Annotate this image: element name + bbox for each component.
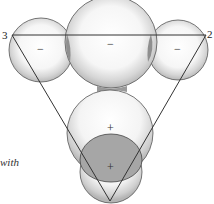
plus-sign-lower: +	[107, 160, 114, 174]
vertex-label-2: 2	[207, 28, 213, 40]
minus-sign-left: −	[37, 42, 44, 56]
minus-sign-right: −	[174, 42, 181, 56]
minus-sign-center: −	[107, 37, 114, 51]
caption-fragment: with	[0, 156, 19, 168]
orbital-diagram: 3 2 − − − + +	[0, 0, 214, 204]
vertex-label-3: 3	[2, 29, 8, 41]
plus-sign-upper: +	[107, 121, 114, 135]
dark-filled-lobe	[80, 134, 142, 182]
